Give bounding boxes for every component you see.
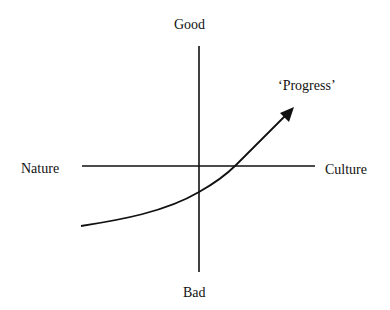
axis-label-bad: Bad <box>183 285 206 301</box>
curve-label-progress: ‘Progress’ <box>278 78 336 94</box>
nature-culture-progress-diagram: Good Bad Nature Culture ‘Progress’ <box>0 0 390 310</box>
axis-label-good: Good <box>174 17 205 33</box>
axis-label-nature: Nature <box>21 161 59 177</box>
progress-curve <box>81 116 285 226</box>
axis-label-culture: Culture <box>325 162 367 178</box>
diagram-canvas <box>0 0 390 310</box>
